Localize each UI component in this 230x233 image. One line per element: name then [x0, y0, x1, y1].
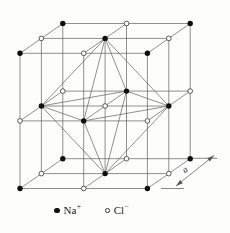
lattice-svg: a: [0, 0, 230, 233]
na-filled-circle-icon: [54, 208, 60, 214]
na-ion: [102, 36, 107, 41]
cl-open-circle-icon: [105, 208, 110, 213]
cl-charge-superscript: −: [125, 202, 129, 211]
cl-ion: [188, 89, 193, 94]
cl-ion: [18, 119, 23, 124]
legend-item-cl: Cl−: [105, 205, 129, 216]
legend-label-na: Na+: [64, 205, 82, 216]
cl-ion: [124, 21, 129, 26]
legend-label-cl: Cl−: [114, 205, 129, 216]
cl-label-text: Cl: [114, 204, 124, 216]
cl-ion: [145, 119, 150, 124]
legend: Na+ Cl−: [54, 205, 129, 216]
na-ion: [17, 51, 22, 56]
cl-ion: [81, 51, 86, 56]
cl-ion: [166, 171, 171, 176]
cl-ion: [103, 104, 108, 109]
na-label-text: Na: [64, 204, 77, 216]
na-ion: [17, 186, 22, 191]
na-ion: [145, 51, 150, 56]
na-ion: [145, 186, 150, 191]
na-ion: [81, 118, 86, 123]
cl-ion: [39, 36, 44, 41]
na-ion: [60, 21, 65, 26]
nacl-crystal-structure-figure: a Na+ Cl−: [0, 0, 230, 233]
na-ion: [102, 171, 107, 176]
na-charge-superscript: +: [77, 202, 81, 211]
na-ion: [124, 88, 129, 93]
na-ion: [188, 156, 193, 161]
cl-ion: [60, 89, 65, 94]
na-ion: [166, 103, 171, 108]
na-ion: [188, 21, 193, 26]
na-ion: [60, 156, 65, 161]
legend-item-na: Na+: [54, 205, 81, 216]
cl-ion: [124, 156, 129, 161]
cl-ion: [166, 36, 171, 41]
cl-ion: [39, 171, 44, 176]
lattice-constant-label: a: [180, 164, 190, 175]
na-ion: [39, 103, 44, 108]
arrowhead-icon: [176, 180, 183, 186]
cl-ion: [81, 186, 86, 191]
